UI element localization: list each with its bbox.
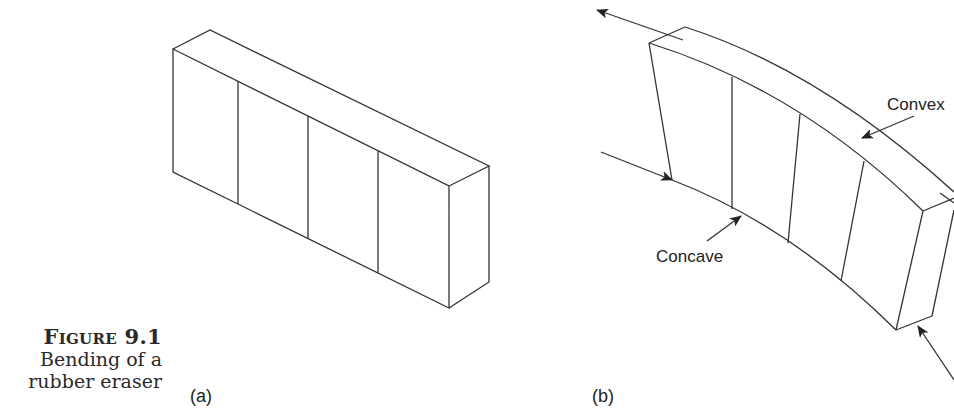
figure-canvas: Convex Concave xyxy=(0,0,954,408)
left-edge xyxy=(649,43,672,180)
bent-section-line-2 xyxy=(788,114,800,243)
undeformed-eraser-block xyxy=(173,30,489,308)
concave-pointer-arrow-icon xyxy=(707,216,741,241)
right-back-edge xyxy=(932,210,954,316)
convex-pointer-arrow-icon xyxy=(862,116,914,138)
force-arrow-left-icon xyxy=(601,152,672,180)
right-front-edge xyxy=(896,211,923,330)
right-bottom-edge xyxy=(896,316,932,330)
bent-eraser-block xyxy=(649,27,954,330)
right-face xyxy=(449,166,489,308)
concave-label: Concave xyxy=(656,247,723,266)
convex-label: Convex xyxy=(887,95,945,114)
force-arrow-top-left-icon xyxy=(597,10,683,40)
front-face xyxy=(173,49,449,308)
force-arrow-bottom-right-icon xyxy=(918,326,954,380)
top-face xyxy=(173,30,489,186)
front-top-arc xyxy=(649,43,923,211)
bent-section-line-3 xyxy=(841,161,864,281)
